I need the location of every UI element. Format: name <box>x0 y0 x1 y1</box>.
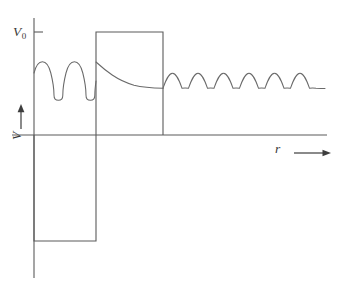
wavefunction-well-region <box>34 62 96 101</box>
v-axis-direction-arrow <box>18 104 25 129</box>
r-axis-label: r <box>275 142 280 156</box>
v0-subscript: 0 <box>21 31 26 41</box>
v-axis-label: V <box>10 132 24 140</box>
v0-level-label: V0 <box>13 25 26 41</box>
potential-diagram-canvas <box>0 0 339 288</box>
v0-symbol: V <box>13 24 21 39</box>
potential-step-profile <box>34 32 163 241</box>
wavefunction-free-region <box>163 73 325 88</box>
potential-diagram-figure: V0 V r <box>0 0 339 288</box>
r-axis-direction-arrow <box>294 150 331 156</box>
wavefunction-barrier-decay <box>96 62 163 88</box>
